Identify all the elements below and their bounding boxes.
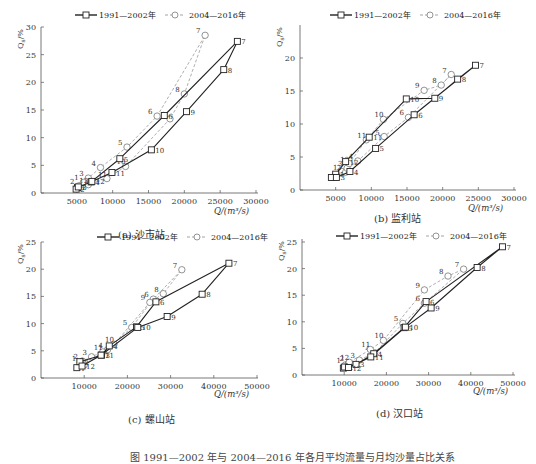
y-tick-label: 20	[26, 78, 36, 87]
marker-circle	[448, 71, 454, 77]
month-label: 7	[173, 262, 177, 270]
month-label: 7	[442, 67, 446, 75]
month-label: 8	[154, 286, 158, 294]
x-tick-label: 10000	[71, 382, 96, 391]
legend-circle-icon	[172, 12, 178, 18]
y-tick-label: 25	[287, 238, 297, 247]
marker-square	[89, 178, 95, 184]
legend-series1-label: 1991—2002年	[121, 232, 178, 242]
month-label: 3	[83, 349, 87, 357]
y-tick-label: 15	[285, 87, 295, 96]
marker-circle	[202, 32, 208, 38]
legend-circle-icon	[433, 233, 439, 239]
x-tick-label: 30000	[158, 382, 183, 391]
marker-circle	[460, 266, 466, 272]
y-tick-label: 5	[31, 161, 36, 170]
month-label: 5	[118, 139, 122, 147]
marker-circle	[179, 267, 185, 273]
chart-title-c: (c) 螺山站	[128, 411, 175, 426]
month-label: 6	[160, 299, 165, 307]
legend-series2-label: 2004—2016年	[450, 231, 507, 241]
legend-series2-label: 2004—2016年	[189, 10, 246, 20]
y-tick-label: 0	[31, 374, 36, 383]
month-label: 12	[96, 178, 105, 186]
x-tick-label: 25000	[466, 194, 491, 203]
month-label: 6	[399, 109, 404, 117]
month-label: 5	[124, 156, 128, 164]
marker-circle	[147, 299, 153, 305]
month-label: 8	[175, 86, 179, 94]
marker-square	[423, 299, 429, 305]
y-tick-label: 20	[287, 265, 297, 274]
month-label: 7	[455, 261, 459, 269]
month-label: 11	[357, 132, 366, 140]
month-label: 6	[418, 112, 423, 120]
marker-square	[472, 62, 478, 68]
month-label: 8	[481, 265, 485, 273]
legend-circle-icon	[427, 12, 433, 18]
month-label: 10	[155, 147, 164, 155]
marker-circle	[438, 82, 444, 88]
marker-square	[148, 147, 154, 153]
marker-square	[199, 291, 205, 297]
month-label: 7	[241, 38, 245, 46]
legend-square-icon	[338, 12, 344, 18]
x-tick-label: 15000	[394, 194, 419, 203]
month-label: 9	[415, 282, 419, 290]
month-label: 10	[410, 96, 419, 104]
marker-circle	[421, 87, 427, 93]
marker-square	[106, 343, 112, 349]
x-tick-label: 30000	[416, 379, 441, 388]
month-label: 7	[479, 62, 483, 70]
month-label: 7	[196, 27, 200, 35]
y-tick-label: 20	[285, 54, 295, 63]
y-tick-label: 15	[26, 106, 36, 115]
marker-square	[474, 265, 480, 271]
marker-square	[428, 305, 434, 311]
marker-square	[98, 352, 104, 358]
month-label: 10	[142, 324, 151, 332]
month-label: 12	[350, 159, 359, 167]
month-label: 5	[380, 145, 384, 153]
month-label: 8	[432, 77, 436, 85]
x-axis-label: Q/(m³/s)	[473, 386, 508, 396]
month-label: 6	[168, 113, 173, 121]
month-label: 4	[354, 169, 359, 177]
month-label: 11	[105, 352, 114, 360]
chart-panel-b: 0510152050001000015000200002500030000Qs/…	[268, 0, 536, 225]
month-label: 8	[439, 268, 443, 276]
legend-series2-label: 2004—2016年	[211, 232, 268, 242]
month-label: 5	[123, 319, 127, 327]
marker-square	[403, 96, 409, 102]
x-tick-label: 25000	[207, 197, 232, 206]
series-line-2004-2016	[346, 269, 464, 365]
month-label: 8	[206, 291, 210, 299]
month-label: 9	[141, 294, 145, 302]
y-tick-label: 10	[287, 318, 297, 327]
marker-square	[345, 365, 351, 371]
marker-circle	[154, 113, 160, 119]
marker-square	[234, 38, 240, 44]
y-axis-label: Qs/%	[277, 241, 287, 261]
y-tick-label: 15	[287, 291, 297, 300]
month-label: 3	[82, 184, 86, 192]
month-label: 11	[375, 354, 384, 362]
legend-square-icon	[83, 12, 89, 18]
y-tick-label: 10	[26, 134, 36, 143]
legend-series1-label: 1991—2002年	[354, 10, 411, 20]
y-tick-label: 10	[26, 320, 36, 329]
x-tick-label: 10000	[331, 379, 356, 388]
chart-title-b: (b) 监利站	[374, 210, 421, 225]
month-label: 12	[86, 363, 95, 371]
y-tick-label: 5	[31, 347, 36, 356]
marker-square	[161, 113, 167, 119]
month-label: 11	[373, 134, 382, 142]
marker-square	[221, 67, 227, 73]
marker-square	[183, 109, 189, 115]
month-label: 3	[350, 352, 354, 360]
chart-svg-a: 0510152025305000100001500020000250003000…	[0, 0, 268, 225]
legend-series1-label: 1991—2002年	[360, 231, 417, 241]
y-tick-label: 30	[26, 23, 36, 32]
x-tick-label: 30000	[501, 194, 526, 203]
month-label: 6	[415, 295, 420, 303]
